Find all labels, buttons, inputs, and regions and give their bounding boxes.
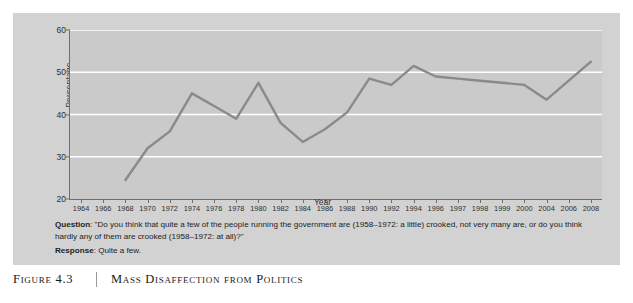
y-tick-label: 30 [57, 152, 66, 162]
question-label: Question [55, 220, 90, 229]
y-tick-mark [66, 114, 70, 115]
question-text: : "Do you think that quite a few of the … [55, 220, 582, 241]
question-line: Question: "Do you think that quite a few… [55, 219, 597, 244]
y-tick-mark [66, 72, 70, 73]
response-line: Response: Quite a few. [55, 245, 597, 257]
caption-block: Question: "Do you think that quite a few… [55, 219, 597, 257]
y-tick-label: 40 [57, 110, 66, 120]
plot-frame: Percentage 20304050601964196619681970197… [57, 30, 602, 200]
caption-divider [96, 272, 97, 287]
figure-number: Figure 4.3 [13, 272, 96, 287]
y-tick-mark [66, 156, 70, 157]
response-text: : Quite a few. [94, 246, 141, 255]
plot-area: 2030405060196419661968197019721974197619… [69, 30, 602, 200]
x-axis-title: Year [25, 197, 620, 207]
y-tick-mark [66, 29, 70, 30]
data-line-quite-a-few [125, 62, 590, 180]
figure-panel: Percentage 20304050601964196619681970197… [13, 13, 620, 265]
figure-caption: Figure 4.3 Mass Disaffection from Politi… [13, 272, 303, 287]
response-label: Response [55, 246, 94, 255]
figure-title: Mass Disaffection from Politics [111, 272, 303, 287]
y-tick-label: 60 [57, 25, 66, 35]
line-chart-svg [70, 30, 602, 199]
y-tick-label: 50 [57, 67, 66, 77]
